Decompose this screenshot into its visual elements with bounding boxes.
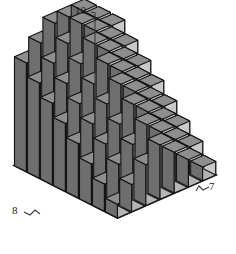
bar-face [134,159,146,206]
figure-canvas: 10 7 8 [0,0,236,254]
axis-label-depth: 8 [12,205,18,216]
bar-face [40,97,52,185]
leader-line-width [196,186,209,191]
bar-face [162,146,174,193]
axis-label-width: 7 [209,181,215,192]
bar-face [53,117,65,191]
bar-face [27,77,39,178]
bar-face [148,139,160,199]
bar-chart-3d [0,0,236,254]
bar-face [66,138,78,198]
leader-line-depth [24,210,40,215]
bar-face [79,158,91,205]
bar-1-7 [191,155,216,180]
bar-face [14,57,26,172]
axis-label-height: 10 [75,5,86,16]
